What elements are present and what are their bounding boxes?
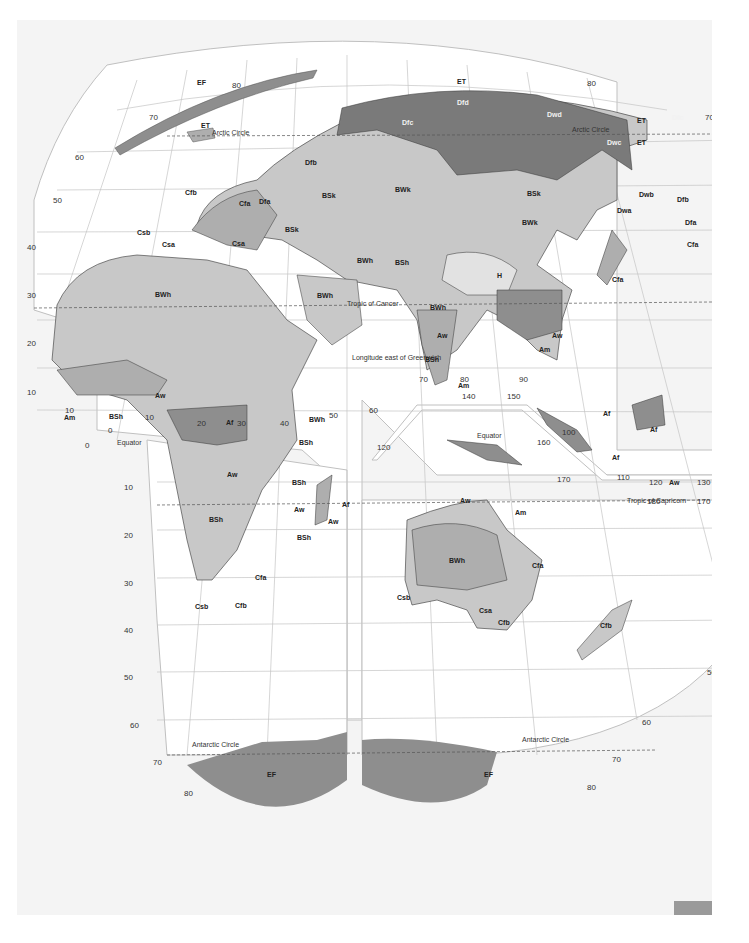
svg-text:Am: Am	[64, 414, 75, 421]
svg-text:Dfc: Dfc	[402, 119, 413, 126]
lat-tick: 70	[612, 755, 621, 764]
tropic-cancer-label: Tropic of Cancer	[347, 300, 399, 308]
lat-tick: 20	[27, 339, 36, 348]
svg-text:Cfb: Cfb	[185, 189, 197, 196]
lon-tick: 140	[462, 392, 476, 401]
svg-text:Dfc: Dfc	[672, 114, 683, 121]
svg-text:EF: EF	[197, 79, 207, 86]
corner-tab	[674, 901, 712, 915]
svg-text:BSh: BSh	[209, 516, 223, 523]
lon-tick: 90	[519, 375, 528, 384]
svg-text:Aw: Aw	[227, 471, 238, 478]
lat-tick: 60	[130, 721, 139, 730]
lat-tick: 20	[124, 531, 133, 540]
lon-tick: 110	[617, 473, 630, 482]
svg-text:Csa: Csa	[162, 241, 175, 248]
svg-text:BSh: BSh	[395, 259, 409, 266]
lat-tick: 50	[707, 668, 712, 677]
svg-text:Am: Am	[515, 509, 526, 516]
lon-tick: 40	[280, 419, 289, 428]
svg-text:Csb: Csb	[195, 603, 208, 610]
svg-text:Cfb: Cfb	[235, 602, 247, 609]
svg-text:Aw: Aw	[155, 392, 166, 399]
lon-tick: 150	[507, 392, 521, 401]
svg-text:BSh: BSh	[299, 439, 313, 446]
svg-text:BWh: BWh	[155, 291, 171, 298]
lat-tick: 50	[53, 196, 62, 205]
svg-text:EF: EF	[267, 771, 277, 778]
lat-tick: 80	[587, 79, 596, 88]
map-page: Arctic Circle Arctic Circle Tropic of Ca…	[17, 20, 712, 915]
lat-tick: 60	[642, 718, 651, 727]
lon-tick: 70	[419, 375, 428, 384]
svg-text:Cfb: Cfb	[498, 619, 510, 626]
svg-text:BWk: BWk	[395, 186, 411, 193]
lat-tick: 80	[587, 783, 596, 792]
lat-tick: 40	[124, 626, 133, 635]
arctic-circle-label: Arctic Circle	[212, 129, 249, 136]
svg-text:BWh: BWh	[317, 292, 333, 299]
svg-text:ET: ET	[457, 78, 467, 85]
svg-text:Aw: Aw	[437, 332, 448, 339]
svg-text:Cfa: Cfa	[612, 276, 623, 283]
svg-text:Cfa: Cfa	[239, 200, 250, 207]
svg-text:BSk: BSk	[322, 192, 336, 199]
svg-text:BSh: BSh	[297, 534, 311, 541]
lon-tick: 20	[197, 419, 206, 428]
svg-text:Dwa: Dwa	[617, 207, 632, 214]
svg-text:EF: EF	[484, 771, 494, 778]
svg-text:BWh: BWh	[357, 257, 373, 264]
lat-tick: 40	[27, 243, 36, 252]
arctic-circle-east-label: Arctic Circle	[572, 126, 609, 133]
svg-text:Aw: Aw	[294, 506, 305, 513]
lon-tick: 50	[329, 411, 338, 420]
lat-tick: 0	[85, 441, 90, 450]
lon-tick: 120	[649, 478, 663, 487]
lat-tick: 80	[184, 789, 193, 798]
svg-text:Dfa: Dfa	[685, 219, 696, 226]
svg-text:BWk: BWk	[522, 219, 538, 226]
lon-tick: 60	[369, 406, 378, 415]
lat-tick: 70	[149, 113, 158, 122]
svg-text:Am: Am	[539, 346, 550, 353]
svg-text:H: H	[497, 272, 502, 279]
lat-tick: 60	[75, 153, 84, 162]
lat-tick: 30	[27, 291, 36, 300]
lat-tick: 10	[27, 388, 36, 397]
lat-tick: 80	[232, 81, 241, 90]
lon-tick: 30	[237, 419, 246, 428]
svg-text:ET: ET	[637, 117, 647, 124]
lon-tick: 120	[377, 443, 391, 452]
svg-text:Dwb: Dwb	[639, 191, 654, 198]
svg-text:Csb: Csb	[137, 229, 150, 236]
svg-text:Aw: Aw	[328, 518, 339, 525]
svg-text:Am: Am	[458, 382, 469, 389]
lat-tick: 70	[153, 758, 162, 767]
lat-tick: 50	[124, 673, 133, 682]
svg-text:Aw: Aw	[460, 497, 471, 504]
lat-tick: 10	[124, 483, 133, 492]
lon-tick: 100	[562, 428, 576, 437]
equator-east-label: Equator	[477, 432, 502, 440]
svg-text:Csb: Csb	[397, 594, 410, 601]
svg-text:Cfb: Cfb	[600, 622, 612, 629]
lon-tick: 170	[697, 497, 711, 506]
lon-tick: 0	[108, 426, 113, 435]
equator-west-label: Equator	[117, 439, 142, 447]
svg-text:Cfa: Cfa	[687, 241, 698, 248]
svg-text:Af: Af	[612, 454, 620, 461]
lat-tick: 70	[705, 113, 712, 122]
lat-tick: 30	[124, 579, 133, 588]
antarctic-circle-west-label: Antarctic Circle	[192, 741, 239, 748]
svg-text:ET: ET	[201, 122, 211, 129]
svg-text:Cfa: Cfa	[255, 574, 266, 581]
svg-text:Af: Af	[342, 501, 350, 508]
svg-text:BSh: BSh	[109, 413, 123, 420]
svg-text:Dwd: Dwd	[547, 111, 562, 118]
svg-text:BSk: BSk	[527, 190, 541, 197]
lon-tick: 160	[537, 438, 551, 447]
svg-text:Af: Af	[650, 426, 658, 433]
svg-text:Dfb: Dfb	[677, 196, 689, 203]
lon-tick: 170	[557, 475, 571, 484]
svg-text:Aw: Aw	[669, 479, 680, 486]
